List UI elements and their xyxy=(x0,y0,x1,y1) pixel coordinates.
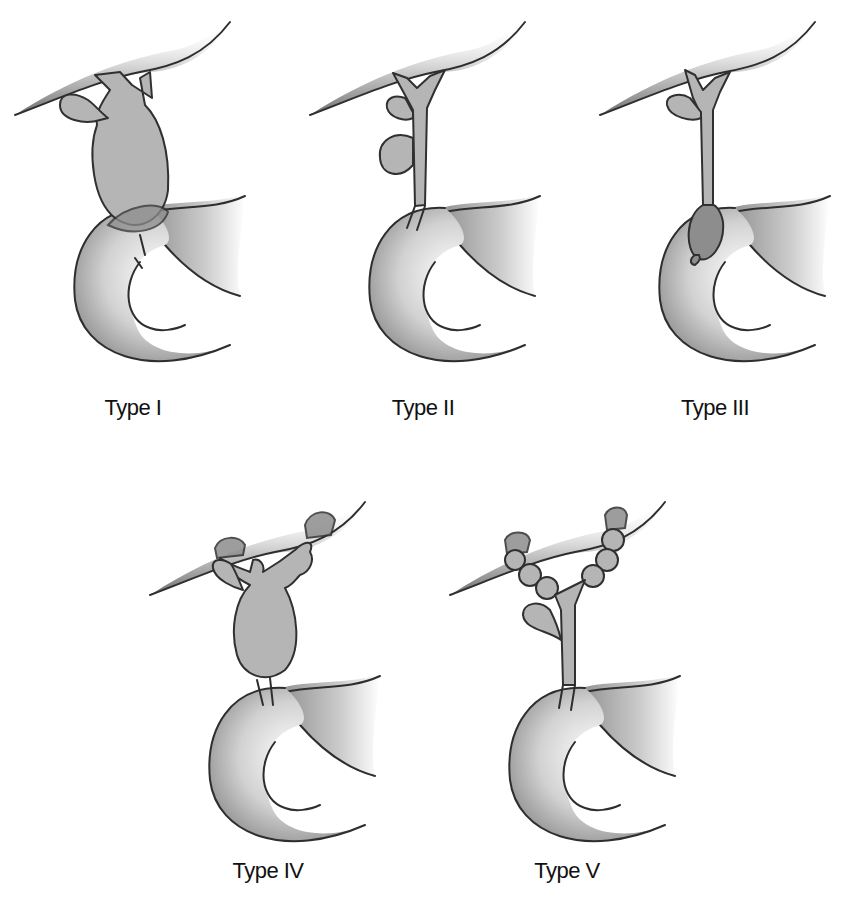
label-type-5: Type V xyxy=(534,858,599,884)
panel-type-3: Type III xyxy=(585,0,845,430)
type-4-illustration xyxy=(135,480,415,850)
panel-type-5: Type V xyxy=(435,480,735,898)
label-type-1: Type I xyxy=(105,395,162,421)
type-5-illustration xyxy=(435,480,735,850)
type-1-illustration xyxy=(0,0,290,380)
label-type-4: Type IV xyxy=(232,858,303,884)
panel-type-4: Type IV xyxy=(135,480,415,898)
panel-type-1: Type I xyxy=(0,0,290,430)
label-type-2: Type II xyxy=(392,395,455,421)
label-type-3: Type III xyxy=(681,395,749,421)
panel-type-2: Type II xyxy=(295,0,575,430)
type-2-illustration xyxy=(295,0,575,380)
type-3-illustration xyxy=(585,0,845,380)
